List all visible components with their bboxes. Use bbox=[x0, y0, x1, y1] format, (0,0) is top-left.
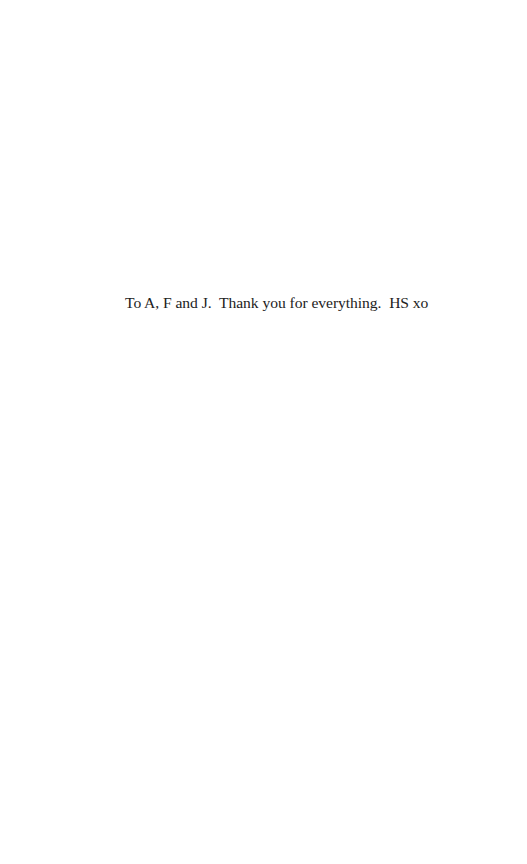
book-page: To A, F and J. Thank you for everything.… bbox=[0, 0, 527, 864]
dedication-text: To A, F and J. Thank you for everything.… bbox=[125, 293, 428, 313]
